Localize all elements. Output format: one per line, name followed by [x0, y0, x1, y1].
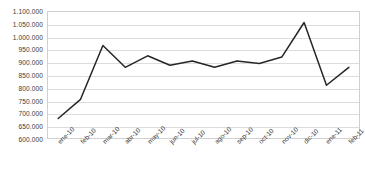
y-tick-label: 850.000	[18, 72, 43, 79]
y-tick-label: 600.000	[18, 136, 43, 143]
y-tick-label: 900.000	[18, 59, 43, 66]
y-tick-label: 1.100.000	[13, 8, 43, 15]
y-tick-label: 750.000	[18, 97, 43, 104]
series-line	[58, 23, 349, 119]
y-tick-label: 1.000.000	[13, 33, 43, 40]
y-axis: 1.100.0001.050.0001.000.000950.000900.00…	[0, 0, 45, 180]
y-tick-label: 950.000	[18, 46, 43, 53]
y-tick-label: 700.000	[18, 110, 43, 117]
y-tick-label: 800.000	[18, 84, 43, 91]
y-tick-label: 1.050.000	[13, 20, 43, 27]
x-axis: ene-10feb-10mar-10abr-10may-10jun-10jul-…	[47, 140, 360, 180]
series-line-layer	[47, 11, 360, 139]
y-tick-label: 650.000	[18, 123, 43, 130]
